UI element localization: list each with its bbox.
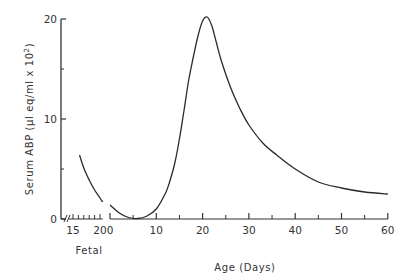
x-tick-label: 0 — [107, 224, 114, 236]
fetal-tick-label: 15 — [66, 224, 79, 236]
series-postnatal-line — [110, 17, 388, 219]
axes — [61, 19, 388, 222]
series-fetal-line — [80, 155, 103, 202]
x-tick-label: 50 — [335, 224, 348, 236]
y-tick-label: 20 — [44, 13, 57, 25]
x-axis-title: Age (Days) — [214, 262, 275, 273]
y-tick-label: 10 — [44, 113, 57, 125]
x-tick-label: 30 — [242, 224, 255, 236]
x-tick-label: 10 — [150, 224, 163, 236]
curves — [80, 17, 388, 219]
x-tick-label: 20 — [196, 224, 209, 236]
y-axis-title: Serum ABP (µl eq/ml x 102) — [23, 43, 35, 195]
x-tick-label: 40 — [289, 224, 302, 236]
y-tick-label: 0 — [50, 213, 57, 225]
fetal-axis-title: Fetal — [75, 245, 102, 256]
x-tick-label: 60 — [381, 224, 394, 236]
fetal-tick-label: 20 — [93, 224, 106, 236]
chart: 010201520Fetal0102030405060Age (Days)Ser… — [0, 0, 419, 278]
labels: 010201520Fetal0102030405060Age (Days)Ser… — [23, 13, 394, 273]
